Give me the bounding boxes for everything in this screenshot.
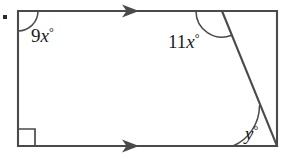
angle-label-9x-unit: ° (49, 25, 54, 39)
rectangle-outline (18, 11, 277, 146)
angle-label-9x: 9x° (31, 25, 54, 46)
angle-label-11x-unit: ° (195, 31, 200, 45)
item-bullet (3, 15, 7, 19)
angle-label-y-variable: y (243, 123, 254, 144)
angle-label-y: y° (243, 123, 258, 144)
angle-label-y-unit: ° (253, 123, 258, 137)
angle-label-11x-coefficient: 11 (168, 31, 186, 52)
angle-label-9x-coefficient: 9 (31, 25, 41, 46)
right-angle-square (18, 129, 35, 146)
geometry-figure: 9x° 11x° y° (0, 0, 295, 159)
figure-canvas: 9x° 11x° y° (0, 0, 295, 159)
angle-label-11x: 11x° (168, 31, 200, 52)
